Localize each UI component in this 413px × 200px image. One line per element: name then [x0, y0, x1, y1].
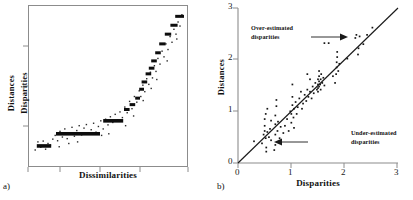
panel-a-xlabel: Dissimilarities	[28, 170, 188, 180]
panel-a-ylabel-disparities: Disparities	[19, 61, 29, 125]
x-tick-label-1: 1	[288, 167, 293, 177]
panel-b-label: b)	[217, 181, 225, 191]
axis-ticks-a	[23, 46, 188, 172]
panel-b-xlabel: Disparities	[238, 178, 398, 188]
isotonic-step-function-a	[37, 15, 184, 148]
y-tick-label-3: 3	[228, 1, 233, 11]
annotation-under-estimated: Under-estimated disparities	[351, 129, 413, 147]
scatter-points-a	[35, 14, 183, 151]
x-tick-label-2: 2	[341, 167, 346, 177]
panel-b-ylabel: Distances	[216, 45, 226, 109]
y-tick-label-2: 2	[228, 52, 233, 62]
annotation-over-estimated: Over-estimated disparities	[251, 24, 313, 42]
annotation-under-line1: Under-estimated	[351, 129, 413, 138]
x-tick-label-0: 0	[235, 167, 240, 177]
annotation-arrows-b	[274, 34, 348, 146]
x-tick-label-3: 3	[394, 167, 399, 177]
annotation-over-line2: disparities	[251, 33, 313, 42]
panel-a-label: a)	[3, 181, 10, 191]
y-tick-label-1: 1	[228, 104, 233, 114]
figure-shepard-diagrams: Distances Disparities Dissimilarities a)	[0, 0, 413, 200]
panel-a-ylabel-distances: Distances	[6, 61, 16, 125]
panel-a: Distances Disparities Dissimilarities a)	[0, 0, 207, 200]
panel-b: Over-estimated disparities Under-estimat…	[207, 0, 413, 200]
annotation-over-line1: Over-estimated	[251, 24, 313, 33]
annotation-under-line2: disparities	[351, 138, 413, 147]
y-tick-label-0: 0	[228, 156, 233, 166]
